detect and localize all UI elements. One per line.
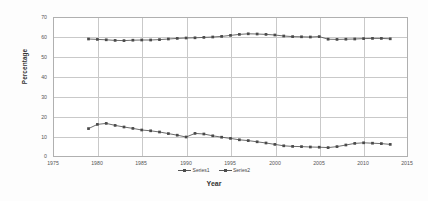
series-group-2 — [87, 122, 391, 149]
data-point-marker — [140, 39, 143, 42]
data-point-marker — [265, 142, 268, 145]
chart-container: 70 60 50 40 30 20 10 0 1975 1980 1985 19… — [0, 0, 428, 201]
data-point-marker — [353, 38, 356, 41]
legend-label: Series2 — [233, 168, 250, 173]
data-point-marker — [238, 138, 241, 141]
data-point-marker — [185, 136, 188, 139]
data-point-marker — [194, 132, 197, 135]
data-point-marker — [167, 132, 170, 135]
legend-marker-icon — [219, 168, 232, 173]
data-point-marker — [167, 38, 170, 41]
data-point-marker — [327, 146, 330, 149]
data-point-marker — [114, 39, 117, 42]
legend-item-series1[interactable]: Series1 — [178, 168, 209, 173]
data-point-marker — [282, 144, 285, 147]
legend-item-series2[interactable]: Series2 — [219, 168, 250, 173]
data-point-marker — [300, 35, 303, 38]
data-point-marker — [309, 146, 312, 149]
data-point-marker — [362, 37, 365, 40]
data-point-marker — [282, 35, 285, 38]
chart-legend: Series1 Series2 — [0, 168, 428, 173]
data-point-marker — [211, 36, 214, 39]
data-point-marker — [132, 127, 135, 130]
data-point-marker — [132, 39, 135, 42]
data-point-marker — [185, 37, 188, 40]
data-point-marker — [362, 141, 365, 144]
data-point-marker — [345, 38, 348, 41]
data-point-marker — [229, 137, 232, 140]
legend-label: Series1 — [193, 168, 210, 173]
data-point-marker — [247, 139, 250, 142]
data-point-marker — [274, 34, 277, 37]
data-point-marker — [265, 33, 268, 36]
series-group-1 — [87, 32, 391, 42]
data-point-marker — [318, 146, 321, 149]
data-point-marker — [336, 38, 339, 41]
data-point-marker — [158, 131, 161, 134]
data-point-marker — [229, 34, 232, 37]
data-point-marker — [256, 33, 259, 36]
data-point-marker — [158, 38, 161, 41]
data-point-marker — [380, 37, 383, 40]
x-axis-title: Year — [0, 180, 428, 187]
data-point-marker — [371, 37, 374, 40]
data-point-marker — [371, 142, 374, 145]
data-point-marker — [274, 143, 277, 146]
data-point-marker — [87, 127, 90, 130]
data-point-marker — [123, 39, 126, 42]
data-point-marker — [176, 37, 179, 40]
data-point-marker — [300, 145, 303, 148]
data-point-marker — [114, 124, 117, 127]
data-point-marker — [96, 38, 99, 41]
data-point-marker — [247, 32, 250, 35]
data-point-marker — [176, 134, 179, 137]
data-point-marker — [345, 144, 348, 147]
data-point-marker — [140, 129, 143, 132]
data-point-marker — [105, 122, 108, 125]
data-point-marker — [238, 33, 241, 36]
data-point-marker — [291, 145, 294, 148]
data-point-marker — [105, 38, 108, 41]
y-axis-title: Percentage — [21, 37, 28, 97]
data-point-marker — [380, 142, 383, 145]
data-point-marker — [389, 37, 392, 40]
data-point-marker — [194, 36, 197, 39]
data-point-marker — [149, 129, 152, 132]
data-point-marker — [336, 145, 339, 148]
data-point-marker — [96, 123, 99, 126]
data-point-marker — [203, 36, 206, 39]
legend-marker-icon — [178, 168, 191, 173]
data-point-marker — [256, 140, 259, 143]
data-point-marker — [353, 142, 356, 145]
data-point-marker — [203, 133, 206, 136]
data-point-marker — [309, 36, 312, 39]
data-point-marker — [220, 136, 223, 139]
data-point-marker — [318, 35, 321, 38]
data-point-marker — [87, 38, 90, 41]
data-point-marker — [389, 143, 392, 146]
data-point-marker — [211, 134, 214, 137]
data-point-marker — [123, 126, 126, 129]
data-point-marker — [149, 39, 152, 42]
data-point-marker — [291, 35, 294, 38]
data-point-marker — [220, 35, 223, 38]
data-point-marker — [327, 38, 330, 41]
